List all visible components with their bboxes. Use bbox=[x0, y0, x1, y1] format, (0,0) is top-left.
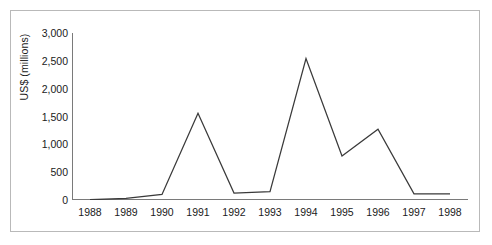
y-tick-label: 500 bbox=[22, 167, 68, 177]
x-tick-label: 1996 bbox=[360, 205, 396, 221]
line-chart-svg bbox=[72, 33, 468, 200]
y-tick-label: 1,000 bbox=[22, 139, 68, 149]
x-axis-tick-labels: 1988198919901991199219931994199519961997… bbox=[72, 205, 468, 221]
x-tick-label: 1994 bbox=[288, 205, 324, 221]
x-tick-label: 1990 bbox=[144, 205, 180, 221]
plot-area bbox=[72, 33, 468, 200]
y-tick-label: 2,500 bbox=[22, 56, 68, 66]
x-tick-label: 1995 bbox=[324, 205, 360, 221]
x-tick-label: 1991 bbox=[180, 205, 216, 221]
axis-ticks bbox=[72, 34, 468, 201]
y-tick-label: 1,500 bbox=[22, 112, 68, 122]
x-tick-label: 1989 bbox=[108, 205, 144, 221]
x-tick-label: 1988 bbox=[72, 205, 108, 221]
x-tick-label: 1993 bbox=[252, 205, 288, 221]
chart-figure: US$ (millions) 05001,0001,5002,0002,5003… bbox=[0, 0, 492, 245]
x-tick-label: 1992 bbox=[216, 205, 252, 221]
y-tick-label: 2,000 bbox=[22, 84, 68, 94]
y-axis-tick-labels: 05001,0001,5002,0002,5003,000 bbox=[18, 0, 68, 245]
x-tick-label: 1998 bbox=[432, 205, 468, 221]
x-tick-label: 1997 bbox=[396, 205, 432, 221]
axes-group bbox=[72, 33, 468, 200]
y-tick-label: 3,000 bbox=[22, 28, 68, 38]
data-series-line bbox=[90, 59, 450, 200]
y-tick-label: 0 bbox=[22, 195, 68, 205]
